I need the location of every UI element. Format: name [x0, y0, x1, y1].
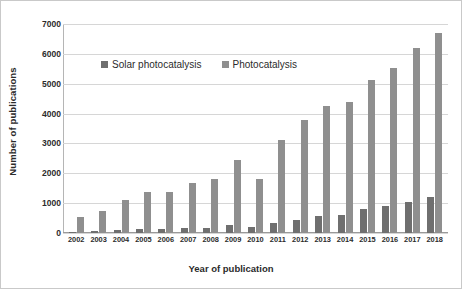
bar-group [424, 24, 446, 233]
bar [77, 217, 84, 233]
x-axis-tick-label: 2014 [334, 235, 356, 244]
bar [413, 48, 420, 233]
legend-swatch-icon [101, 61, 108, 68]
chart-legend: Solar photocatalysisPhotocatalysis [101, 59, 297, 70]
bar [181, 228, 188, 233]
legend-item[interactable]: Photocatalysis [222, 59, 297, 70]
bar-group [311, 24, 333, 233]
bar [256, 179, 263, 233]
y-axis-tick-labels: 01000200030004000500060007000 [21, 1, 61, 289]
x-axis-tick-label: 2013 [311, 235, 333, 244]
bar [234, 160, 241, 233]
x-axis-tick-label: 2006 [155, 235, 177, 244]
bar [166, 192, 173, 234]
x-axis-tick-labels: 2002200320042005200620072008200920102011… [63, 235, 448, 244]
bar [114, 230, 121, 233]
y-axis-tick-label: 7000 [27, 19, 61, 29]
x-axis-title: Year of publication [1, 263, 461, 274]
bar [368, 80, 375, 233]
bar [189, 183, 196, 233]
bar [158, 229, 165, 233]
bar [226, 225, 233, 233]
x-axis-tick-label: 2018 [424, 235, 446, 244]
y-axis-title: Number of publications [1, 1, 23, 241]
bar-group [177, 24, 199, 233]
bar-group [356, 24, 378, 233]
bar [390, 68, 397, 233]
y-axis-tick-label: 0 [27, 228, 61, 238]
y-axis-tick-label: 5000 [27, 79, 61, 89]
bar [122, 200, 129, 233]
x-axis-tick-label: 2017 [401, 235, 423, 244]
legend-label: Solar photocatalysis [112, 59, 202, 70]
chart-figure: Number of publications 01000200030004000… [0, 0, 462, 289]
x-axis-tick-label: 2016 [379, 235, 401, 244]
x-axis-tick-label: 2002 [65, 235, 87, 244]
x-axis-tick-label: 2011 [267, 235, 289, 244]
bar [405, 202, 412, 233]
legend-item[interactable]: Solar photocatalysis [101, 59, 202, 70]
x-axis-tick-label: 2010 [244, 235, 266, 244]
bar-group [87, 24, 109, 233]
x-axis-tick-label: 2008 [199, 235, 221, 244]
bar [338, 215, 345, 233]
bar [427, 197, 434, 233]
x-axis-tick-label: 2007 [177, 235, 199, 244]
bar-groups [63, 24, 448, 233]
y-axis-tick-label: 1000 [27, 198, 61, 208]
y-axis-tick-label: 3000 [27, 138, 61, 148]
y-axis-tick-label: 2000 [27, 168, 61, 178]
x-axis-tick-label: 2015 [356, 235, 378, 244]
plot-area [63, 24, 448, 233]
x-axis-tick-label: 2004 [110, 235, 132, 244]
bar-group [379, 24, 401, 233]
bar [203, 228, 210, 233]
bar [270, 223, 277, 233]
bar [136, 229, 143, 233]
bar [435, 33, 442, 233]
bar [211, 179, 218, 233]
bar [315, 216, 322, 233]
bar [346, 102, 353, 233]
x-axis-tick-label: 2005 [132, 235, 154, 244]
bar-group [155, 24, 177, 233]
bar [99, 211, 106, 233]
bar-group [65, 24, 87, 233]
bar-group [199, 24, 221, 233]
bar [301, 120, 308, 233]
bar-group [401, 24, 423, 233]
bar [382, 206, 389, 233]
bar [323, 106, 330, 233]
gridline [63, 233, 448, 234]
x-axis-tick-label: 2003 [87, 235, 109, 244]
bar-group [132, 24, 154, 233]
x-axis-tick-label: 2012 [289, 235, 311, 244]
bar [248, 227, 255, 233]
bar [69, 232, 76, 233]
bar-group [289, 24, 311, 233]
x-axis-tick-label: 2009 [222, 235, 244, 244]
bar [91, 231, 98, 233]
bar [360, 209, 367, 233]
y-axis-tick-label: 6000 [27, 49, 61, 59]
bar-group [267, 24, 289, 233]
y-axis-title-text: Number of publications [7, 67, 18, 175]
bar-group [110, 24, 132, 233]
bar [278, 140, 285, 233]
bar [144, 192, 151, 233]
legend-swatch-icon [222, 61, 229, 68]
y-axis-tick-label: 4000 [27, 109, 61, 119]
legend-label: Photocatalysis [233, 59, 297, 70]
bar-group [222, 24, 244, 233]
bar [293, 220, 300, 233]
bar-group [244, 24, 266, 233]
bar-group [334, 24, 356, 233]
